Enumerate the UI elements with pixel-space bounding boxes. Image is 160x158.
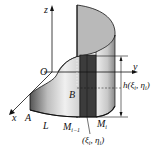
z-axis: [50, 5, 54, 72]
M-i-label: Mi: [96, 118, 107, 130]
height-label: h(ξi, ηi): [123, 80, 150, 91]
y-axis-label: y: [132, 61, 138, 72]
M-prev-label: Mi−1: [62, 121, 80, 133]
curve-L-label: L: [42, 120, 49, 131]
x-axis-label: x: [11, 112, 17, 123]
origin-label: O: [40, 66, 47, 77]
z-axis-label: z: [43, 4, 48, 15]
height-strip: [80, 55, 96, 117]
cylinder-surface-diagram: z y x O h(ξi, ηi) A B L Mi−1 Mi: [0, 0, 160, 158]
point-B-label: B: [69, 89, 75, 100]
point-xi-eta-label: (ξi, ηi): [82, 135, 104, 146]
point-A-label: A: [24, 112, 32, 123]
